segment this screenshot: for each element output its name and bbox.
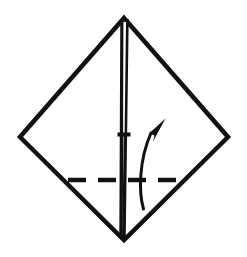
origami-diagram-svg	[0, 0, 247, 257]
center-crease-left-line	[121, 19, 122, 238]
center-crease-notch-mark	[118, 133, 131, 137]
origami-diagram-canvas	[0, 0, 247, 257]
